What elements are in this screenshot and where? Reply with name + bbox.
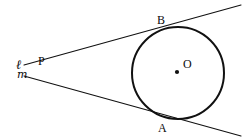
tangent-line-m (24, 76, 241, 136)
figure-canvas (0, 0, 242, 140)
point-label-p: P (38, 55, 45, 67)
geometry-figure: ℓ m P B A O (0, 0, 242, 140)
point-label-a: A (158, 122, 167, 134)
line-label-m: m (17, 69, 27, 80)
point-label-o: O (183, 58, 192, 70)
point-label-b: B (157, 14, 165, 26)
tangent-line-ell (24, 5, 241, 65)
center-point-dot (175, 70, 179, 74)
